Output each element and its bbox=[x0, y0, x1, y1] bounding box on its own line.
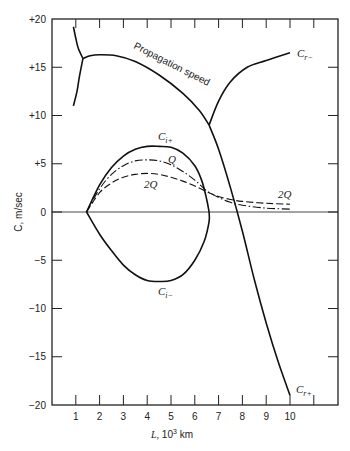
two-q-label-left: 2Q bbox=[144, 178, 158, 190]
y-axis-label: C, m/sec bbox=[13, 192, 24, 231]
cr-minus-label: Cr− bbox=[297, 47, 313, 62]
y-tick-label: −5 bbox=[35, 255, 47, 266]
y-tick-label: +5 bbox=[35, 158, 47, 169]
x-tick-label: 10 bbox=[284, 411, 296, 422]
curve-c-r bbox=[209, 53, 290, 125]
propagation-speed-label: Propagation speed bbox=[132, 40, 212, 88]
y-tick-label: +15 bbox=[29, 62, 46, 73]
y-tick-label: −10 bbox=[29, 303, 46, 314]
chart: 12345678910+20+15+10+50−5−10−15−20 C, m/… bbox=[0, 0, 350, 451]
x-tick-label: 6 bbox=[192, 411, 198, 422]
curve-q bbox=[87, 160, 290, 212]
y-tick-label: +20 bbox=[29, 14, 46, 25]
ci-plus-label: Ci+ bbox=[158, 130, 173, 145]
ci-minus-label: Ci− bbox=[158, 285, 173, 300]
curves bbox=[73, 27, 290, 396]
two-q-label-right: 2Q bbox=[278, 188, 292, 200]
y-tick-label: −15 bbox=[29, 351, 46, 362]
x-tick-label: 7 bbox=[216, 411, 222, 422]
curve-propagation-speed-upper-left-branch bbox=[73, 27, 83, 59]
cr-plus-label: Cr+ bbox=[296, 383, 312, 398]
curve-2q bbox=[87, 173, 290, 212]
y-tick-label: −20 bbox=[29, 400, 46, 411]
curve-c-r bbox=[209, 125, 290, 395]
y-tick-label: +10 bbox=[29, 110, 46, 121]
x-tick-label: 2 bbox=[97, 411, 103, 422]
x-tick-label: 3 bbox=[121, 411, 127, 422]
x-tick-label: 4 bbox=[144, 411, 150, 422]
q-label: Q bbox=[168, 153, 176, 165]
curve-propagation-speed-lower-left-branch bbox=[73, 59, 83, 106]
x-tick-label: 5 bbox=[168, 411, 174, 422]
x-axis-label: L, 103 km bbox=[150, 428, 193, 440]
curve-c-i bbox=[87, 212, 210, 281]
x-tick-label: 1 bbox=[73, 411, 79, 422]
y-tick-label: 0 bbox=[40, 207, 46, 218]
curve-propagation-speed bbox=[83, 55, 209, 125]
x-tick-label: 9 bbox=[263, 411, 269, 422]
x-tick-label: 8 bbox=[240, 411, 246, 422]
